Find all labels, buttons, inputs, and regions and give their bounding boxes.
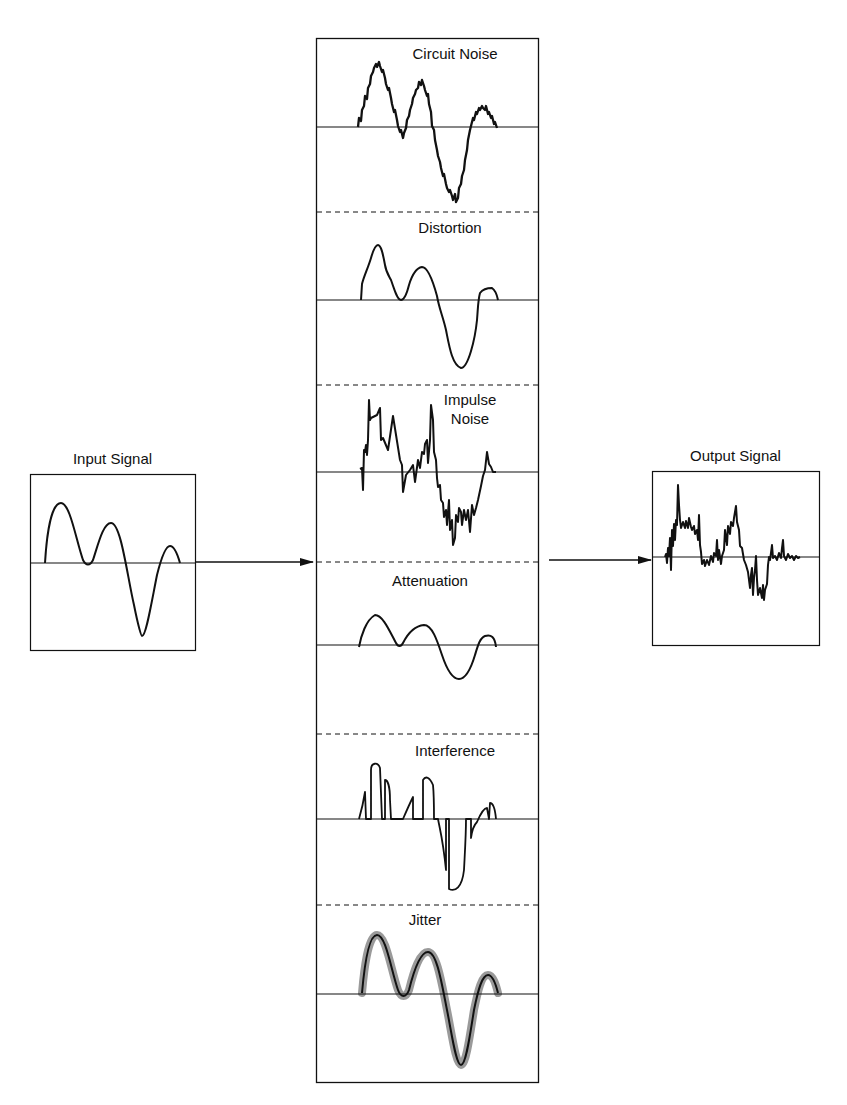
distortion-label: Distortion — [385, 219, 515, 236]
jitter-halo — [362, 935, 498, 1065]
jitter-label: Jitter — [375, 911, 475, 928]
impulse-noise-label-line2: Noise — [420, 410, 520, 427]
impulse-noise-label-line1: Impulse — [420, 391, 520, 408]
attenuation-waveform — [359, 615, 496, 679]
output-signal-panel — [652, 472, 820, 646]
diagram-canvas — [0, 0, 847, 1105]
distortion-waveform — [361, 245, 498, 368]
interference-label: Interference — [380, 742, 530, 759]
distortion-panel — [317, 245, 538, 368]
input-waveform — [45, 503, 180, 636]
circuit-noise-panel — [317, 62, 538, 202]
input-signal-label: Input Signal — [30, 450, 195, 467]
attenuation-label: Attenuation — [360, 572, 500, 589]
output-signal-label: Output Signal — [652, 447, 819, 464]
interference-waveform — [359, 764, 496, 890]
circuit-noise-label: Circuit Noise — [390, 45, 520, 62]
interference-panel — [317, 764, 538, 890]
output-waveform — [665, 485, 800, 600]
circuit-noise-waveform — [358, 62, 497, 202]
input-signal-panel — [30, 475, 196, 651]
attenuation-panel — [317, 615, 538, 679]
jitter-panel — [317, 935, 538, 1065]
